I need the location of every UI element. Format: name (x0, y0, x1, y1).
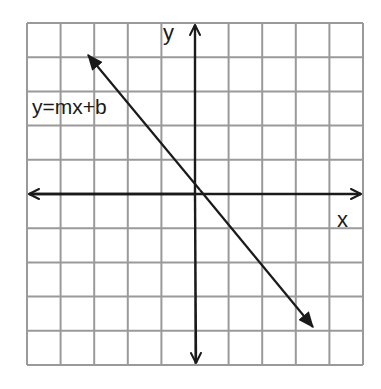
y-axis-label: y (163, 20, 174, 45)
x-axis-label: x (337, 207, 348, 232)
coordinate-plane: y=mx+b y x (0, 0, 381, 389)
y-axis-negative (195, 194, 196, 363)
equation-label: y=mx+b (32, 95, 107, 118)
